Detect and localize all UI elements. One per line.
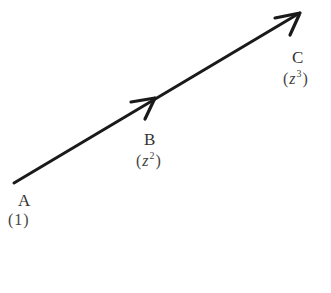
point-b-exp: 2 bbox=[150, 150, 156, 161]
point-b-base: z bbox=[142, 152, 149, 169]
point-c-label: C bbox=[292, 49, 303, 66]
diagram-canvas: A (1) B (z2) C (z3) bbox=[0, 0, 331, 293]
point-c-exp: 3 bbox=[297, 68, 303, 79]
point-a-value-text: 1 bbox=[14, 211, 23, 228]
point-a-label: A bbox=[18, 192, 30, 209]
point-a-value: (1) bbox=[8, 212, 30, 228]
vector-arrows bbox=[0, 0, 331, 293]
point-c-value: (z3) bbox=[283, 69, 309, 87]
point-c-base: z bbox=[289, 70, 296, 87]
point-b-label: B bbox=[144, 131, 155, 148]
point-b-value: (z2) bbox=[136, 151, 162, 169]
